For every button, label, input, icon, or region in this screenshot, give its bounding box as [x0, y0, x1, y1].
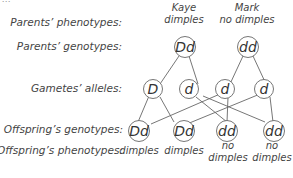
svg-text:Dd: Dd: [174, 123, 194, 139]
offspring-node-4: dd: [264, 121, 285, 142]
svg-text:d: d: [260, 81, 269, 97]
offspring-2-phenotype: dimples: [162, 145, 206, 157]
offspring-1-phenotype: dimples: [114, 145, 164, 157]
offspring-3-phenotype: no dimples: [206, 140, 250, 164]
gamete-node-4: d: [255, 80, 274, 99]
parent-node-mark: dd: [238, 37, 259, 58]
svg-text:Dd: Dd: [175, 39, 195, 55]
svg-text:dd: dd: [265, 123, 283, 139]
offspring-node-1: Dd: [129, 121, 150, 142]
offspring-4-phenotype: no dimples: [250, 140, 293, 164]
svg-text:dd: dd: [239, 39, 257, 55]
svg-text:dd: dd: [218, 123, 236, 139]
gamete-node-1: D: [144, 80, 163, 99]
svg-text:d: d: [185, 81, 194, 97]
offspring-node-3: dd: [217, 121, 238, 142]
gamete-node-2: d: [180, 80, 199, 99]
parent-node-kaye: Dd: [175, 37, 196, 58]
svg-text:Dd: Dd: [129, 123, 149, 139]
svg-text:D: D: [148, 81, 159, 97]
gamete-node-3: d: [216, 80, 235, 99]
svg-text:d: d: [221, 81, 230, 97]
offspring-node-2: Dd: [174, 121, 195, 142]
